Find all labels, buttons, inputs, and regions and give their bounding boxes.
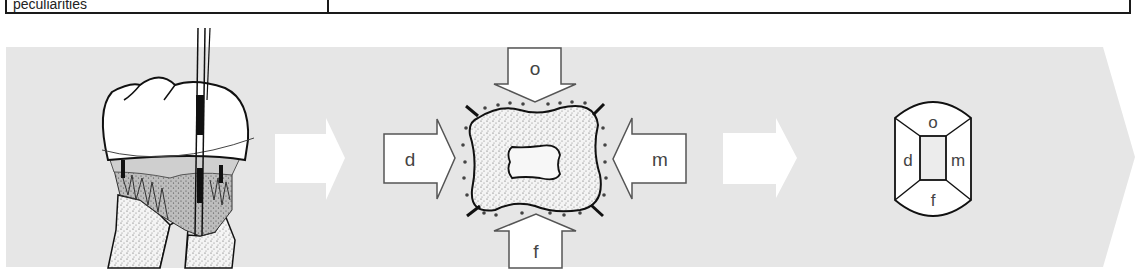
map-label-m: m <box>951 151 965 170</box>
label-o: o <box>530 58 541 79</box>
label-f: f <box>533 241 539 262</box>
map-label-o: o <box>928 113 937 132</box>
map-label-d: d <box>903 151 912 170</box>
surface-map: o d m f <box>895 102 971 216</box>
root-cross-section <box>461 100 608 217</box>
diagram: o d m f o d m f <box>0 0 1137 276</box>
map-label-f: f <box>931 191 936 210</box>
label-m: m <box>652 149 668 170</box>
label-d: d <box>405 149 416 170</box>
